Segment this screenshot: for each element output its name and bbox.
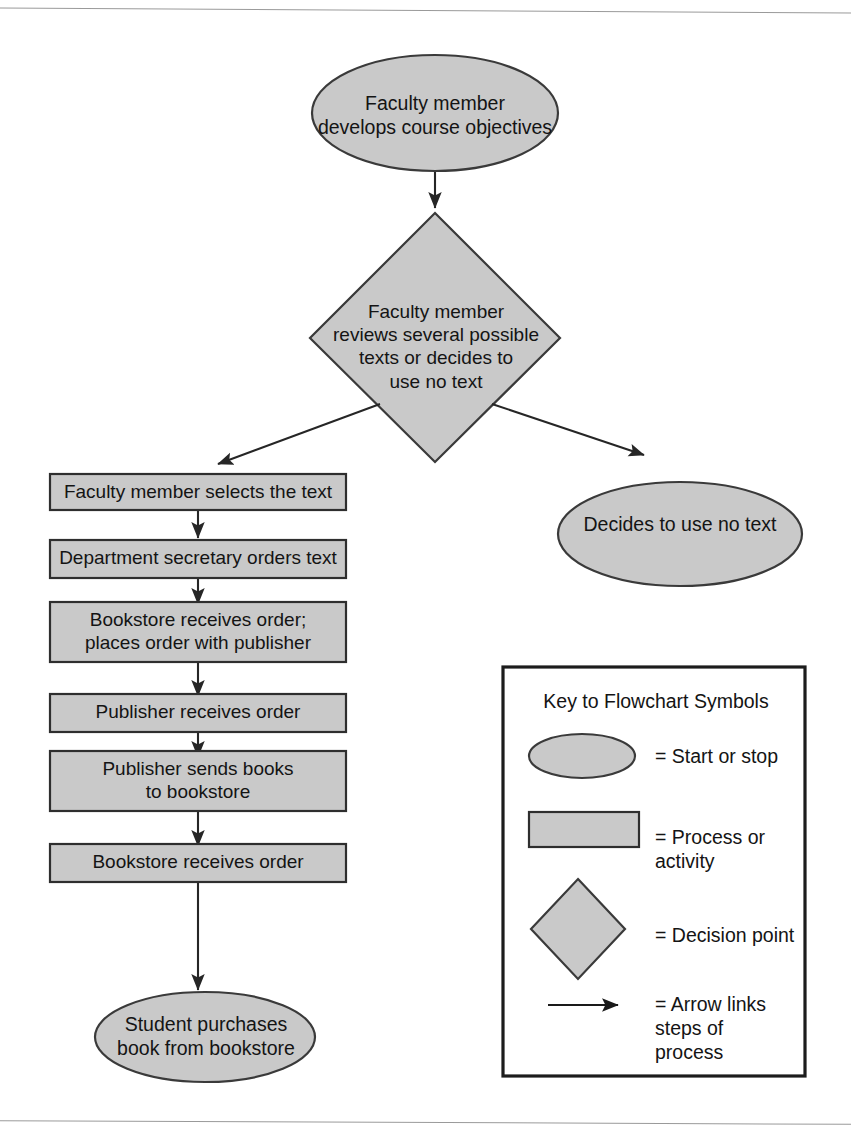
legend-entry-arrow-label: = Arrow links steps of process [655, 993, 805, 1064]
legend-entry-decision-label: = Decision point [655, 924, 815, 948]
edge-decision-to-no-text [492, 404, 644, 455]
flowchart-canvas [0, 0, 851, 1136]
legend-oval-icon [529, 734, 635, 778]
node-process-5 [50, 751, 346, 811]
node-no-text-oval [558, 482, 802, 586]
legend-title: Key to Flowchart Symbols [512, 690, 800, 713]
node-decision-diamond [310, 213, 560, 462]
edge-decision-to-select-text [218, 404, 380, 464]
legend-entry-start-stop-label: = Start or stop [655, 745, 805, 769]
node-process-1 [50, 474, 346, 510]
node-process-3 [50, 602, 346, 662]
node-process-6 [50, 844, 346, 882]
flowchart-page: Faculty member develops course objective… [0, 0, 851, 1136]
node-end-oval [95, 992, 315, 1082]
node-process-2 [50, 540, 346, 578]
legend-rect-icon [529, 812, 639, 847]
legend-entry-process-label: = Process or activity [655, 826, 805, 874]
node-process-4 [50, 694, 346, 732]
node-start-oval [312, 55, 558, 171]
